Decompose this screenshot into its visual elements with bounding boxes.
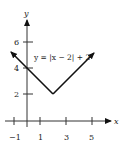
tick-label-y-4: 4 — [14, 64, 19, 73]
x-axis-label: x — [114, 117, 119, 126]
y-axis-label: y — [23, 9, 29, 18]
tick-label-x-3: 3 — [64, 133, 69, 142]
tick-label-y-2: 2 — [14, 90, 19, 99]
equation-label: y = |x − 2| + 2 — [33, 53, 90, 62]
tick-label-y-6: 6 — [14, 38, 19, 47]
absolute-value-graph: −1 1 3 5 6 4 2 x y y = |x − 2| + 2 — [0, 0, 127, 151]
tick-label-x-1: 1 — [38, 133, 43, 142]
tick-label-x-neg1: −1 — [9, 133, 21, 142]
tick-label-x-5: 5 — [89, 133, 94, 142]
